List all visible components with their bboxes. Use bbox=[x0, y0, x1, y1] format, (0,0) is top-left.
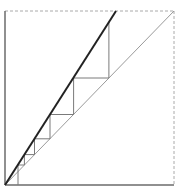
identity-diagonal-line bbox=[5, 11, 174, 185]
cobweb-diagram bbox=[0, 0, 180, 195]
cobweb-path bbox=[18, 22, 109, 185]
map-function-line bbox=[5, 11, 116, 185]
